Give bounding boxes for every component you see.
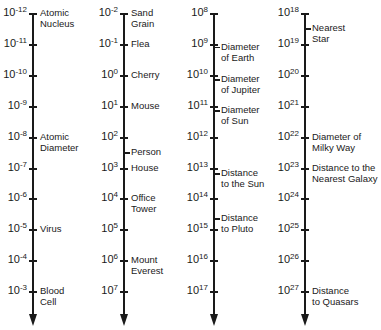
tick-mark bbox=[210, 13, 218, 15]
object-label: Diameterof Jupiter bbox=[221, 73, 260, 95]
tick-mark bbox=[120, 291, 128, 293]
object-label: SandGrain bbox=[131, 7, 154, 29]
object-label: House bbox=[131, 162, 158, 173]
tick-mark bbox=[301, 106, 309, 108]
tick-mark bbox=[210, 168, 218, 170]
object-label: Diameterof Sun bbox=[221, 104, 260, 126]
tick-mark bbox=[301, 229, 309, 231]
object-label: Diameterof Earth bbox=[221, 41, 260, 63]
power-of-ten-label: 10-6 bbox=[8, 191, 27, 205]
power-of-ten-label: 1013 bbox=[187, 161, 208, 175]
object-label: Flea bbox=[131, 38, 149, 49]
object-label: Distanceto the Sun bbox=[221, 167, 264, 189]
object-label: Diameter ofMilky Way bbox=[312, 131, 361, 153]
power-of-ten-label: 102 bbox=[101, 130, 118, 144]
object-label: NearestStar bbox=[312, 22, 345, 44]
object-label: Distanceto Pluto bbox=[221, 212, 258, 234]
power-of-ten-label: 1017 bbox=[187, 284, 208, 298]
power-of-ten-label: 1012 bbox=[187, 130, 208, 144]
power-of-ten-label: 1014 bbox=[187, 191, 208, 205]
power-of-ten-label: 1016 bbox=[187, 253, 208, 267]
tick-mark bbox=[120, 75, 128, 77]
tick-mark bbox=[301, 198, 309, 200]
power-of-ten-label: 107 bbox=[101, 284, 118, 298]
power-of-ten-label: 10-10 bbox=[3, 68, 27, 82]
tick-mark bbox=[301, 44, 309, 46]
object-label: Person bbox=[131, 146, 161, 157]
power-of-ten-label: 101 bbox=[101, 99, 118, 113]
power-of-ten-label: 1026 bbox=[278, 253, 299, 267]
marker-tick bbox=[125, 152, 130, 154]
object-label: Cherry bbox=[131, 69, 160, 80]
marker-tick bbox=[215, 218, 220, 220]
power-of-ten-label: 10-7 bbox=[8, 161, 27, 175]
tick-mark bbox=[120, 44, 128, 46]
power-of-ten-label: 1025 bbox=[278, 222, 299, 236]
tick-mark bbox=[29, 75, 37, 77]
tick-mark bbox=[301, 137, 309, 139]
power-of-ten-label: 1020 bbox=[278, 68, 299, 82]
power-of-ten-label: 10-4 bbox=[8, 253, 27, 267]
tick-mark bbox=[120, 229, 128, 231]
object-label: Mouse bbox=[131, 100, 160, 111]
tick-mark bbox=[210, 137, 218, 139]
power-of-ten-label: 10-11 bbox=[4, 37, 27, 51]
power-of-ten-label: 105 bbox=[101, 222, 118, 236]
object-label: Distanceto Quasars bbox=[312, 285, 358, 307]
tick-mark bbox=[120, 137, 128, 139]
arrow-down-icon bbox=[301, 314, 309, 326]
tick-mark bbox=[301, 291, 309, 293]
tick-mark bbox=[301, 13, 309, 15]
tick-mark bbox=[29, 198, 37, 200]
tick-mark bbox=[210, 260, 218, 262]
tick-mark bbox=[29, 13, 37, 15]
power-of-ten-label: 10-3 bbox=[8, 284, 27, 298]
power-of-ten-label: 1021 bbox=[278, 99, 299, 113]
tick-mark bbox=[210, 198, 218, 200]
tick-mark bbox=[210, 75, 218, 77]
power-of-ten-label: 1023 bbox=[278, 161, 299, 175]
power-of-ten-label: 108 bbox=[191, 6, 208, 20]
power-of-ten-label: 1010 bbox=[187, 68, 208, 82]
power-of-ten-label: 1022 bbox=[278, 130, 299, 144]
power-of-ten-label: 104 bbox=[101, 191, 118, 205]
object-label: BloodCell bbox=[40, 285, 64, 307]
power-of-ten-label: 1018 bbox=[278, 6, 299, 20]
tick-mark bbox=[29, 229, 37, 231]
power-of-ten-label: 109 bbox=[191, 37, 208, 51]
tick-mark bbox=[29, 44, 37, 46]
power-of-ten-label: 10-2 bbox=[99, 6, 118, 20]
power-of-ten-label: 1024 bbox=[278, 191, 299, 205]
marker-tick bbox=[306, 28, 311, 30]
power-of-ten-label: 103 bbox=[101, 161, 118, 175]
tick-mark bbox=[120, 260, 128, 262]
tick-mark bbox=[29, 137, 37, 139]
power-of-ten-label: 1011 bbox=[187, 99, 208, 113]
tick-mark bbox=[29, 168, 37, 170]
marker-tick bbox=[215, 47, 220, 49]
object-label: AtomicDiameter bbox=[40, 131, 79, 153]
tick-mark bbox=[210, 229, 218, 231]
power-of-ten-label: 10-12 bbox=[3, 6, 27, 20]
power-of-ten-label: 1015 bbox=[187, 222, 208, 236]
object-label: Distance to theNearest Galaxy bbox=[312, 162, 377, 184]
power-of-ten-label: 10-1 bbox=[99, 37, 118, 51]
power-of-ten-label: 10-8 bbox=[8, 130, 27, 144]
tick-mark bbox=[29, 106, 37, 108]
power-of-ten-label: 1019 bbox=[278, 37, 299, 51]
tick-mark bbox=[120, 198, 128, 200]
object-label: OfficeTower bbox=[131, 192, 156, 214]
tick-mark bbox=[210, 44, 218, 46]
arrow-down-icon bbox=[210, 314, 218, 326]
power-of-ten-label: 1027 bbox=[278, 284, 299, 298]
arrow-down-icon bbox=[120, 314, 128, 326]
tick-mark bbox=[210, 291, 218, 293]
power-of-ten-label: 10-9 bbox=[8, 99, 27, 113]
tick-mark bbox=[210, 106, 218, 108]
object-label: MountEverest bbox=[131, 254, 163, 276]
tick-mark bbox=[29, 260, 37, 262]
tick-mark bbox=[120, 13, 128, 15]
power-of-ten-label: 10-5 bbox=[8, 222, 27, 236]
object-label: AtomicNucleus bbox=[40, 7, 74, 29]
marker-tick bbox=[215, 110, 220, 112]
